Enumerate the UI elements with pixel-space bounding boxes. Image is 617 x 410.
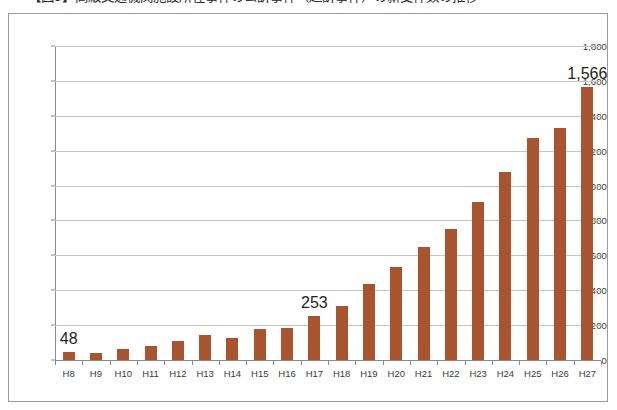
- x-tick-mark: [137, 361, 138, 365]
- x-tick-mark: [437, 361, 438, 365]
- gridline: [55, 81, 601, 82]
- x-tick-mark: [273, 361, 274, 365]
- bar-h20: [390, 267, 402, 360]
- x-tick-mark: [301, 361, 302, 365]
- bar-h13: [199, 335, 211, 360]
- gridline: [55, 116, 601, 117]
- bar-h18: [336, 306, 348, 360]
- gridline: [55, 186, 601, 187]
- x-tick-mark: [546, 361, 547, 365]
- data-label-h27: 1,566: [567, 65, 607, 83]
- x-tick-label-h10: H10: [115, 368, 132, 379]
- x-tick-label-h18: H18: [333, 368, 350, 379]
- x-tick-mark: [328, 361, 329, 365]
- x-tick-label-h25: H25: [524, 368, 541, 379]
- bar-h21: [418, 247, 430, 360]
- data-label-h8: 48: [60, 330, 78, 348]
- bar-h8: [63, 352, 75, 360]
- x-tick-label-h13: H13: [196, 368, 213, 379]
- x-tick-label-h8: H8: [63, 368, 75, 379]
- x-tick-mark: [164, 361, 165, 365]
- x-tick-label-h19: H19: [360, 368, 377, 379]
- bar-h25: [527, 138, 539, 360]
- chart-frame: 02004006008001,0001,2001,4001,6001,800 H…: [8, 13, 608, 402]
- x-tick-label-h24: H24: [497, 368, 514, 379]
- x-tick-label-h23: H23: [469, 368, 486, 379]
- bar-h15: [254, 329, 266, 360]
- x-tick-label-h9: H9: [90, 368, 102, 379]
- gridline: [55, 220, 601, 221]
- x-tick-label-h11: H11: [142, 368, 159, 379]
- bar-h11: [145, 346, 157, 360]
- x-tick-mark: [465, 361, 466, 365]
- x-tick-mark: [492, 361, 493, 365]
- x-tick-mark: [383, 361, 384, 365]
- x-tick-mark: [519, 361, 520, 365]
- x-tick-label-h16: H16: [278, 368, 295, 379]
- bar-h10: [117, 349, 129, 360]
- bar-h16: [281, 328, 293, 360]
- bar-h22: [445, 229, 457, 360]
- bar-h27: [581, 87, 593, 360]
- x-tick-mark: [110, 361, 111, 365]
- x-tick-label-h17: H17: [306, 368, 323, 379]
- x-tick-mark: [574, 361, 575, 365]
- gridline: [55, 151, 601, 152]
- bar-h9: [90, 353, 102, 360]
- bar-h24: [499, 172, 511, 360]
- gridline: [55, 325, 601, 326]
- x-tick-mark: [82, 361, 83, 365]
- bar-chart: 02004006008001,0001,2001,4001,6001,800 H…: [9, 14, 607, 401]
- bar-h19: [363, 284, 375, 360]
- data-label-h17: 253: [301, 294, 328, 312]
- x-tick-label-h12: H12: [169, 368, 186, 379]
- x-tick-label-h26: H26: [551, 368, 568, 379]
- figure-caption-clip: 【図5】高級交通機関施設所在事件の公訴事件（起訴事件）の新受件数の推移: [0, 0, 617, 12]
- x-tick-label-h22: H22: [442, 368, 459, 379]
- x-tick-mark: [246, 361, 247, 365]
- x-tick-mark: [219, 361, 220, 365]
- x-tick-label-h27: H27: [579, 368, 596, 379]
- x-tick-label-h14: H14: [224, 368, 241, 379]
- bar-h14: [226, 338, 238, 360]
- gridline: [55, 46, 601, 47]
- x-tick-label-h21: H21: [415, 368, 432, 379]
- bar-h26: [554, 128, 566, 360]
- x-tick-mark: [410, 361, 411, 365]
- x-tick-label-h15: H15: [251, 368, 268, 379]
- x-tick-mark: [601, 361, 602, 365]
- gridline: [55, 255, 601, 256]
- bar-h23: [472, 202, 484, 360]
- x-tick-label-h20: H20: [388, 368, 405, 379]
- gridline: [55, 290, 601, 291]
- x-tick-mark: [192, 361, 193, 365]
- bar-h17: [308, 316, 320, 360]
- x-tick-mark: [355, 361, 356, 365]
- plot-area: [55, 46, 601, 360]
- x-axis-ticks: H8H9H10H11H12H13H14H15H16H17H18H19H20H21…: [55, 361, 601, 383]
- x-tick-mark: [55, 361, 56, 365]
- bar-h12: [172, 341, 184, 360]
- figure-caption: 【図5】高級交通機関施設所在事件の公訴事件（起訴事件）の新受件数の推移: [28, 0, 478, 3]
